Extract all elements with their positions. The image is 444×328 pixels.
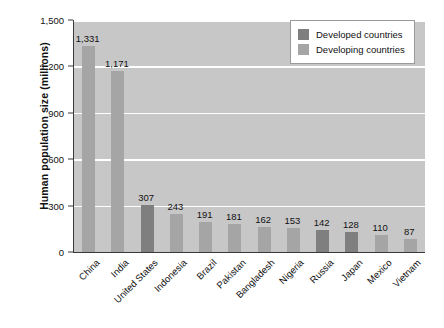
bar-pakistan[interactable]: [228, 224, 241, 252]
x-label-mexico: Mexico: [365, 257, 394, 286]
bar-mexico[interactable]: [375, 235, 388, 252]
legend-label: Developed countries: [316, 29, 403, 40]
legend-swatch-icon: [298, 29, 309, 40]
x-label-brazil: Brazil: [194, 257, 219, 282]
legend-item-developed[interactable]: Developed countries: [298, 27, 405, 42]
y-tick-label: 1,500: [4, 15, 64, 26]
bar-india[interactable]: [111, 71, 124, 252]
bar-value-label: 87: [389, 226, 429, 237]
x-label-nigeria: Nigeria: [277, 257, 306, 286]
bar-brazil[interactable]: [199, 222, 212, 252]
y-tick-label: 300: [4, 200, 64, 211]
population-bar-chart: Human population size (millions) 0300600…: [0, 0, 444, 328]
bar-indonesia[interactable]: [170, 214, 183, 252]
bar-vietnam[interactable]: [404, 239, 417, 252]
x-label-japan: Japan: [339, 257, 365, 283]
y-tick-label: 900: [4, 107, 64, 118]
y-tick-label: 0: [4, 247, 64, 258]
chart-legend: Developed countriesDeveloping countries: [290, 20, 415, 64]
bar-value-label: 1,331: [68, 33, 108, 44]
x-label-russia: Russia: [307, 257, 335, 285]
y-tick-label: 1,200: [4, 61, 64, 72]
bar-nigeria[interactable]: [287, 228, 300, 252]
bar-russia[interactable]: [316, 230, 329, 252]
legend-item-developing[interactable]: Developing countries: [298, 42, 405, 57]
legend-label: Developing countries: [316, 44, 405, 55]
bar-bangladesh[interactable]: [258, 227, 271, 252]
x-label-india: India: [108, 257, 130, 279]
bar-value-label: 1,171: [97, 58, 137, 69]
gridline: [74, 113, 425, 115]
legend-swatch-icon: [298, 44, 309, 55]
x-label-china: China: [76, 257, 101, 282]
bar-united-states[interactable]: [141, 205, 154, 252]
x-label-vietnam: Vietnam: [391, 257, 423, 289]
gridline: [74, 159, 425, 161]
bar-china[interactable]: [82, 46, 95, 252]
gridline: [74, 206, 425, 208]
bar-japan[interactable]: [345, 232, 358, 252]
y-tick-label: 600: [4, 154, 64, 165]
